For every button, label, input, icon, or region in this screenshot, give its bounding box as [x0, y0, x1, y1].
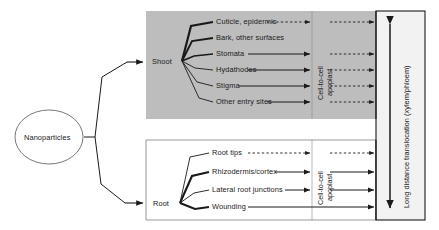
- translocation-box: [376, 11, 425, 220]
- shoot-entry-stomata: Stomata: [216, 50, 244, 57]
- root-entry-rhizodermis: Rhizodermis/cortex: [212, 168, 277, 175]
- root-organ-label: Root: [153, 200, 169, 207]
- shoot-entry-bark: Bark, other surfaces: [216, 34, 284, 41]
- shoot-entry-cuticle: Cuticle, epidermis: [216, 18, 277, 25]
- nanoparticles-label: Nanoparticles: [24, 134, 71, 141]
- shoot-entry-other: Other entry sites: [216, 98, 272, 105]
- root-entry-wounding: Wounding: [212, 203, 246, 210]
- shoot-entry-hydathodes: Hydathodes: [216, 66, 256, 73]
- shoot-apoplast-label-line2: apoplast: [326, 69, 333, 96]
- root-entry-lateral: Lateral root junctions: [212, 186, 283, 193]
- translocation-label: Long distance translocation (xylem/phloe…: [403, 65, 410, 208]
- shoot-apoplast-label-line1: Cell-to-cell: [317, 66, 324, 100]
- branch-stem-down: [95, 137, 125, 203]
- root-panel-background: [146, 140, 376, 220]
- branch-stem-up: [95, 62, 127, 137]
- root-apoplast-label-line1: Cell-to-cell: [317, 171, 324, 205]
- root-apoplast-label-line2: apoplast: [326, 174, 333, 201]
- root-entry-roottips: Root tips: [212, 149, 242, 156]
- shoot-organ-label: Shoot: [152, 58, 172, 65]
- diagram-canvas: Nanoparticles Shoot Root Cuticle, epider…: [0, 0, 439, 230]
- shoot-entry-stigma: Stigma: [216, 82, 240, 89]
